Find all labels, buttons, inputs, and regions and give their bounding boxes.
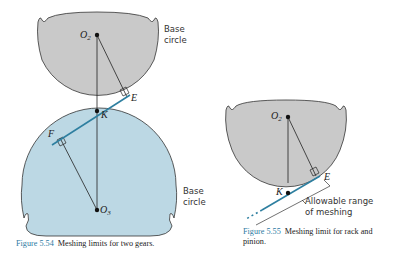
caption-figure-5-55: Figure 5.55Meshing limit for rack and pi… (243, 227, 391, 247)
label-e: E (130, 92, 137, 103)
base-circle-label-bottom-2: circle (183, 197, 206, 207)
pinion-label-e: E (323, 171, 330, 182)
allowable-range-label-1: Allowable range (305, 196, 373, 206)
pinion-point-k (286, 191, 290, 195)
point-o3 (95, 208, 99, 212)
caption-number: Figure 5.55 (243, 227, 281, 236)
rack-line-dashed (246, 210, 262, 219)
pinion-label-k: K (275, 186, 284, 197)
caption-figure-5-54: Figure 5.54Meshing limits for two gears. (16, 239, 206, 249)
pinion-point-o2 (286, 115, 290, 119)
base-circle-label-bottom-1: Base (183, 186, 204, 196)
caption-number: Figure 5.54 (16, 239, 54, 248)
caption-text: Meshing limits for two gears. (58, 239, 155, 248)
diagram-canvas: O2 E K F O3 Base circle Base circle O2 E… (0, 0, 394, 254)
figure-5-54: O2 E K F O3 Base circle Base circle (21, 12, 205, 236)
base-circle-label-top-1: Base (164, 24, 185, 34)
point-k (95, 109, 99, 113)
base-circle-label-top-2: circle (164, 35, 187, 45)
figure-5-55: O2 E K Allowable range of meshing (226, 100, 374, 225)
lower-gear-body (21, 108, 176, 236)
label-f: F (47, 128, 55, 139)
label-k: K (100, 109, 109, 120)
point-o2 (95, 33, 99, 37)
upper-gear-body (38, 12, 159, 95)
allowable-range-label-2: of meshing (305, 207, 352, 217)
